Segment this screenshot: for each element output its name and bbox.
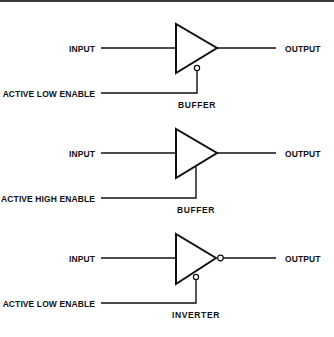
gate-2-caption: BUFFER <box>177 205 215 215</box>
tri-state-diagram: INPUT OUTPUT ACTIVE LOW ENABLE BUFFER IN… <box>0 0 334 337</box>
gate-2-input-label: INPUT <box>69 149 96 159</box>
gate-2-output-label: OUTPUT <box>285 149 321 159</box>
gate-1-enable-inversion-bubble-icon <box>194 65 199 70</box>
gate-3-enable-wire <box>101 280 196 303</box>
gate-3-active-low-inverter: INPUT OUTPUT ACTIVE LOW ENABLE INVERTER <box>3 234 322 320</box>
gate-2-active-high-buffer: INPUT OUTPUT ACTIVE HIGH ENABLE BUFFER <box>1 129 321 215</box>
gate-1-enable-wire <box>101 71 197 93</box>
gate-3-caption: INVERTER <box>172 310 220 320</box>
gate-1-active-low-buffer: INPUT OUTPUT ACTIVE LOW ENABLE BUFFER <box>3 24 322 110</box>
gate-3-output-label: OUTPUT <box>285 254 321 264</box>
gate-3-enable-label: ACTIVE LOW ENABLE <box>3 299 96 309</box>
gate-2-enable-label: ACTIVE HIGH ENABLE <box>1 194 95 204</box>
gate-1-caption: BUFFER <box>178 100 216 110</box>
gate-3-enable-inversion-bubble-icon <box>193 274 198 279</box>
gate-1-output-label: OUTPUT <box>285 44 321 54</box>
gate-1-input-label: INPUT <box>69 44 96 54</box>
gate-3-input-label: INPUT <box>69 254 96 264</box>
gate-1-enable-label: ACTIVE LOW ENABLE <box>3 89 96 99</box>
gate-3-output-inversion-bubble-icon <box>218 255 224 261</box>
